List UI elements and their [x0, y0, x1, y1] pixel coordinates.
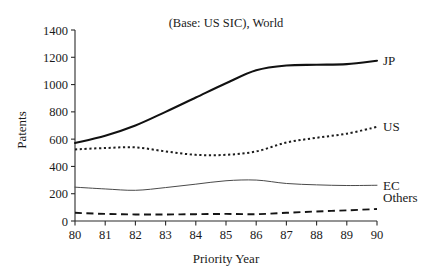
- x-axis-title: Priority Year: [193, 251, 260, 266]
- x-axis-tick-label: 87: [280, 228, 293, 242]
- y-axis-tick-label: 200: [49, 187, 68, 201]
- line-chart: (Base: US SIC), World Patents Priority Y…: [0, 0, 440, 275]
- x-axis: 8081828384858687888990: [69, 221, 384, 242]
- series-line-jp: [75, 61, 377, 143]
- x-axis-tick-label: 88: [310, 228, 323, 242]
- x-axis-tick-label: 84: [190, 228, 203, 242]
- x-axis-tick-label: 80: [69, 228, 82, 242]
- series-label-jp: JP: [383, 53, 395, 68]
- x-axis-tick-label: 89: [341, 228, 354, 242]
- series-label-others: Others: [383, 190, 418, 205]
- chart-title: (Base: US SIC), World: [169, 16, 284, 30]
- x-axis-tick-label: 90: [371, 228, 384, 242]
- y-axis-tick-label: 1200: [43, 51, 68, 65]
- x-axis-tick-label: 83: [159, 228, 172, 242]
- y-axis-tick-label: 600: [49, 133, 68, 147]
- x-axis-tick-label: 85: [220, 228, 233, 242]
- y-axis-tick-label: 400: [49, 160, 68, 174]
- y-axis-tick-label: 1400: [43, 24, 68, 38]
- y-axis-title: Patents: [14, 111, 29, 149]
- y-axis-tick-label: 800: [49, 105, 68, 119]
- series-line-ec: [75, 180, 377, 190]
- x-axis-tick-label: 82: [129, 228, 142, 242]
- chart-container: (Base: US SIC), World Patents Priority Y…: [0, 0, 440, 275]
- y-axis-tick-label: 1000: [43, 78, 68, 92]
- series-labels: JPUSECOthers: [383, 53, 418, 205]
- series-line-others: [75, 209, 377, 215]
- x-axis-tick-label: 86: [250, 228, 263, 242]
- y-axis-tick-label: 0: [62, 215, 68, 229]
- y-axis: 0200400600800100012001400: [43, 24, 75, 229]
- series-label-us: US: [383, 119, 400, 134]
- x-axis-tick-label: 81: [99, 228, 112, 242]
